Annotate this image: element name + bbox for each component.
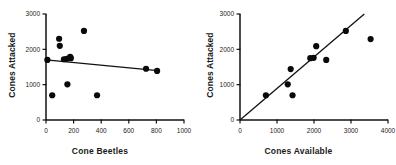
data-point — [263, 92, 269, 98]
data-points-group — [263, 28, 374, 99]
y-tick-label: 0 — [36, 116, 40, 123]
y-tick-label: 2000 — [26, 46, 41, 53]
chart-panel-cones-available: Cones Attacked Cones Available 010002000… — [198, 0, 396, 165]
x-tick-label: 0 — [238, 127, 242, 134]
y-tick-label: 2000 — [220, 46, 235, 53]
y-tick-label: 1000 — [26, 81, 41, 88]
y-tick-label: 3000 — [220, 10, 235, 17]
data-point — [81, 28, 87, 34]
x-tick-label: 1000 — [177, 127, 192, 134]
y-tick-label: 0 — [230, 116, 234, 123]
x-tick-label: 4000 — [381, 127, 396, 134]
x-tick-label: 2000 — [307, 127, 322, 134]
data-point — [323, 57, 329, 63]
data-point — [311, 55, 317, 61]
figure-panel-pair: Cones Attacked Cone Beetles 010002000300… — [0, 0, 396, 165]
data-point — [57, 43, 63, 49]
data-point — [94, 92, 100, 98]
data-point — [68, 55, 74, 61]
data-point — [288, 66, 294, 72]
x-tick-label: 400 — [96, 127, 107, 134]
data-point — [285, 81, 291, 87]
data-point — [44, 57, 50, 63]
x-tick-label: 600 — [123, 127, 134, 134]
data-point — [64, 81, 70, 87]
plot-area: 010002000300002004006008001000 — [0, 0, 198, 140]
data-point — [154, 68, 160, 74]
y-axis-title: Cones Attacked — [7, 30, 17, 100]
data-point — [368, 36, 374, 42]
axes-group: 010002000300002004006008001000 — [26, 10, 192, 133]
data-point — [56, 36, 62, 42]
y-tick-label: 3000 — [26, 10, 41, 17]
data-point — [49, 92, 55, 98]
x-axis-title: Cones Available — [216, 146, 381, 156]
x-tick-label: 200 — [68, 127, 79, 134]
plot-area: 010002000300001000200030004000 — [198, 0, 396, 140]
data-point — [343, 28, 349, 34]
y-axis-title: Cones Attacked — [205, 30, 215, 100]
y-tick-label: 1000 — [220, 81, 235, 88]
data-point — [143, 66, 149, 72]
x-tick-label: 3000 — [344, 127, 359, 134]
data-points-group — [44, 28, 160, 99]
x-tick-label: 800 — [151, 127, 162, 134]
x-axis-title: Cone Beetles — [20, 146, 180, 156]
data-point — [313, 43, 319, 49]
data-point — [289, 92, 295, 98]
x-tick-label: 0 — [44, 127, 48, 134]
chart-panel-cone-beetles: Cones Attacked Cone Beetles 010002000300… — [0, 0, 198, 165]
x-tick-label: 1000 — [270, 127, 285, 134]
